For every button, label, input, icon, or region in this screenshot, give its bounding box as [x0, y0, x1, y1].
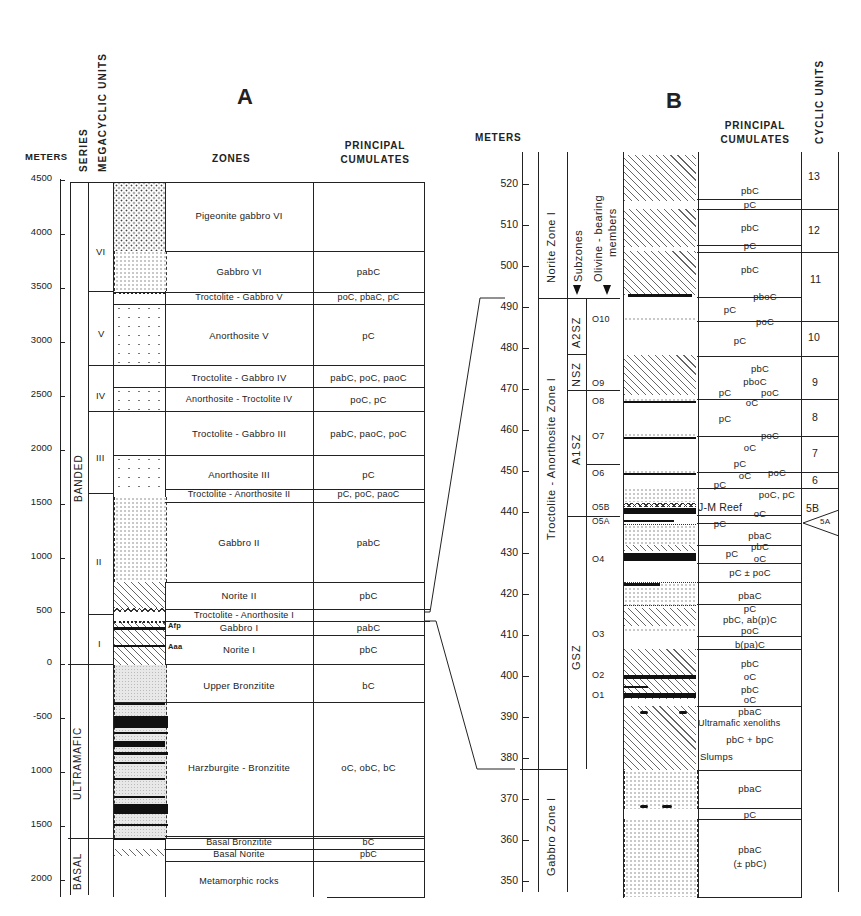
subzone-a1sz: A1SZ — [570, 433, 582, 465]
cumulate-b: pC — [700, 809, 800, 820]
cumulate-b: poC, pC — [752, 489, 802, 500]
cyclic-unit: 13 — [808, 170, 820, 182]
principal-cumulates-b-line1: PRINCIPAL — [700, 119, 810, 133]
tick-b: 400 — [484, 669, 518, 681]
olivine-member: O1 — [592, 690, 604, 700]
tick-b: 450 — [484, 464, 518, 476]
panel-b-label: B — [666, 88, 682, 114]
olivine-member: O5A — [592, 516, 610, 526]
zone-troctolite-anorthosite-i: Troctolite - Anorthosite Zone I — [545, 378, 557, 540]
olivine-header-line2: members — [606, 208, 618, 257]
cumulate-b: pC — [700, 240, 800, 251]
cumulate-b: pC — [700, 335, 780, 346]
cumulate-b: oC — [700, 694, 800, 705]
tick-b: 410 — [484, 628, 518, 640]
olivine-member: O9 — [592, 378, 604, 388]
cumulate-b: pboC — [715, 376, 795, 387]
cumulate-b: poC — [735, 316, 795, 327]
cumulate-b: pbC — [700, 264, 800, 275]
cyclic-units-header: CYCLIC UNITS — [814, 60, 825, 144]
cumulate-b: pC — [700, 304, 760, 315]
meters-header-b: METERS — [475, 131, 521, 145]
olivine-member: O7 — [592, 431, 604, 441]
cumulate-b: pbaC — [700, 844, 800, 855]
cumulate-b: (± pbC) — [700, 858, 800, 869]
olivine-header-line1: Olivine - bearing — [592, 195, 604, 282]
tick-b: 500 — [484, 259, 518, 271]
cumulate-b: pC — [700, 518, 740, 529]
cumulate-b: poC — [700, 625, 800, 636]
subzone-nsz: NSZ — [570, 362, 582, 387]
tick-b: 480 — [484, 341, 518, 353]
cyclic-unit: 5A — [820, 517, 830, 526]
cyclic-unit: 9 — [812, 376, 818, 388]
cumulate-b: oC — [722, 397, 782, 408]
ultramafic-xenoliths-label: Ultramafic xenoliths — [698, 718, 781, 728]
cumulate-b: oC — [735, 553, 785, 564]
cyclic-unit: 8 — [812, 411, 818, 423]
cumulate-b: pbC — [700, 658, 800, 669]
tick-b: 490 — [484, 300, 518, 312]
cumulate-b: poC — [752, 467, 802, 478]
subzone-gsz: GSZ — [570, 644, 582, 670]
cumulate-b: pbaC — [700, 590, 800, 601]
cumulate-b: pbC — [720, 363, 800, 374]
cumulate-b: oC — [700, 671, 800, 682]
principal-cumulates-b-line2: CUMULATES — [700, 133, 810, 147]
olivine-member: O6 — [592, 468, 604, 478]
cumulate-b: pbC — [735, 541, 785, 552]
cumulate-b: pC — [700, 199, 800, 210]
tick-b: 520 — [484, 177, 518, 189]
tick-b: 440 — [484, 505, 518, 517]
cumulate-b: pbaC — [700, 783, 800, 794]
olivine-member: O8 — [592, 396, 604, 406]
olivine-member: O3 — [592, 629, 604, 639]
arrow-down-icon — [603, 285, 611, 295]
cumulate-b: pbaC — [700, 706, 800, 717]
zone-gabbro-i: Gabbro Zone I — [545, 797, 557, 876]
tick-b: 430 — [484, 546, 518, 558]
arrow-down-icon — [573, 285, 581, 295]
cumulate-b: pC — [700, 479, 740, 490]
cyclic-unit: 5B — [806, 502, 819, 514]
cumulate-b: pC — [700, 603, 800, 614]
cyclic-unit: 11 — [810, 273, 821, 285]
cyclic-unit: 7 — [812, 447, 818, 459]
cyclic-unit: 10 — [808, 331, 820, 343]
olivine-member: O10 — [592, 314, 610, 324]
tick-b: 380 — [484, 751, 518, 763]
cumulate-b: b(pa)C — [700, 639, 800, 650]
jm-reef-label: J-M Reef — [698, 501, 742, 513]
cyclic-unit: 12 — [808, 224, 820, 236]
tick-b: 510 — [484, 218, 518, 230]
cyclic-unit: 6 — [812, 474, 818, 486]
tick-b: 460 — [484, 423, 518, 435]
tick-b: 360 — [484, 833, 518, 845]
tick-b: 390 — [484, 710, 518, 722]
cumulate-b: pC — [700, 413, 750, 424]
depth-axis-b — [522, 152, 523, 892]
tick-b: 350 — [484, 874, 518, 886]
cumulate-b: pbC — [700, 222, 800, 233]
subzones-header: Subzones — [572, 230, 584, 282]
tick-b: 470 — [484, 382, 518, 394]
cumulate-b: poC — [740, 430, 800, 441]
olivine-member: O5B — [592, 502, 610, 512]
olivine-member: O4 — [592, 554, 604, 564]
cumulate-b: pboC — [715, 291, 815, 302]
cumulate-b: pbaC — [720, 530, 800, 541]
tick-b: 370 — [484, 792, 518, 804]
olivine-member: O2 — [592, 670, 604, 680]
cumulate-b: pbC — [700, 185, 800, 196]
cumulate-b: pC ± poC — [700, 567, 800, 578]
cumulate-b: pbC + bpC — [700, 734, 800, 745]
zone-norite-i: Norite Zone I — [545, 212, 557, 283]
cumulate-b: oC — [720, 442, 780, 453]
cumulate-b: oC — [740, 508, 780, 519]
slumps-label: Slumps — [700, 751, 733, 762]
subzone-a2sz: A2SZ — [570, 316, 582, 348]
tick-b: 420 — [484, 587, 518, 599]
cumulate-b: pbC, ab(p)C — [700, 614, 800, 625]
